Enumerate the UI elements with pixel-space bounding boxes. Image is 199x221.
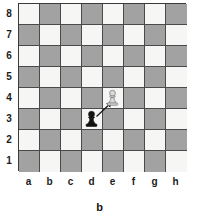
square-a2[interactable] [19,130,40,151]
square-e5[interactable] [103,67,124,88]
square-g4[interactable] [145,88,166,109]
rank-label-4: 4 [2,87,16,108]
square-c3[interactable] [61,109,82,130]
square-b8[interactable] [40,4,61,25]
square-d1[interactable] [82,151,103,172]
square-f3[interactable] [124,109,145,130]
square-d6[interactable] [82,46,103,67]
square-a8[interactable] [19,4,40,25]
file-label-h: h [165,175,186,189]
square-a1[interactable] [19,151,40,172]
square-g6[interactable] [145,46,166,67]
square-e3[interactable] [103,109,124,130]
square-e8[interactable] [103,4,124,25]
square-a5[interactable] [19,67,40,88]
square-f4[interactable] [124,88,145,109]
square-e1[interactable] [103,151,124,172]
chess-diagram-figure: 8 7 6 5 4 3 2 1 [0,0,199,221]
square-g7[interactable] [145,25,166,46]
square-c8[interactable] [61,4,82,25]
rank-label-2: 2 [2,129,16,150]
square-d5[interactable] [82,67,103,88]
square-a3[interactable] [19,109,40,130]
square-a6[interactable] [19,46,40,67]
square-h8[interactable] [166,4,187,25]
square-f7[interactable] [124,25,145,46]
square-b3[interactable] [40,109,61,130]
square-c7[interactable] [61,25,82,46]
file-label-g: g [144,175,165,189]
square-b5[interactable] [40,67,61,88]
square-g3[interactable] [145,109,166,130]
square-b2[interactable] [40,130,61,151]
white-pawn-e4[interactable] [102,87,123,108]
black-pawn-d3[interactable] [81,108,102,129]
square-h7[interactable] [166,25,187,46]
rank-labels: 8 7 6 5 4 3 2 1 [2,3,16,171]
square-h5[interactable] [166,67,187,88]
square-f5[interactable] [124,67,145,88]
square-c6[interactable] [61,46,82,67]
square-g8[interactable] [145,4,166,25]
square-e2[interactable] [103,130,124,151]
square-h1[interactable] [166,151,187,172]
square-d7[interactable] [82,25,103,46]
figure-caption: b [0,201,199,213]
square-a4[interactable] [19,88,40,109]
square-c2[interactable] [61,130,82,151]
square-a7[interactable] [19,25,40,46]
rank-label-8: 8 [2,3,16,24]
file-labels: a b c d e f g h [18,175,186,189]
square-g5[interactable] [145,67,166,88]
rank-label-7: 7 [2,24,16,45]
square-c1[interactable] [61,151,82,172]
square-f2[interactable] [124,130,145,151]
rank-label-1: 1 [2,150,16,171]
file-label-d: d [81,175,102,189]
rank-label-6: 6 [2,45,16,66]
square-c5[interactable] [61,67,82,88]
square-d2[interactable] [82,130,103,151]
square-d8[interactable] [82,4,103,25]
chess-board [18,3,186,171]
square-b7[interactable] [40,25,61,46]
square-c4[interactable] [61,88,82,109]
file-label-c: c [60,175,81,189]
square-f1[interactable] [124,151,145,172]
square-h4[interactable] [166,88,187,109]
square-e6[interactable] [103,46,124,67]
square-b1[interactable] [40,151,61,172]
square-b4[interactable] [40,88,61,109]
square-f8[interactable] [124,4,145,25]
file-label-b: b [39,175,60,189]
file-label-f: f [123,175,144,189]
rank-label-3: 3 [2,108,16,129]
square-h6[interactable] [166,46,187,67]
square-f6[interactable] [124,46,145,67]
square-e7[interactable] [103,25,124,46]
file-label-a: a [18,175,39,189]
file-label-e: e [102,175,123,189]
rank-label-5: 5 [2,66,16,87]
square-h2[interactable] [166,130,187,151]
square-d4[interactable] [82,88,103,109]
square-b6[interactable] [40,46,61,67]
square-h3[interactable] [166,109,187,130]
square-g1[interactable] [145,151,166,172]
square-g2[interactable] [145,130,166,151]
